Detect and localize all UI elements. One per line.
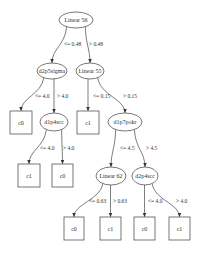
split-node-label: d1p4scc xyxy=(44,119,64,125)
tree-edge xyxy=(111,130,116,167)
split-node-label: Linear 56 xyxy=(64,17,87,23)
split-node-label: Linear 62 xyxy=(99,173,122,179)
edge-label: > 4.0 xyxy=(57,93,69,99)
edge-label: > 0.48 xyxy=(89,41,103,47)
edge-label: <= 4.5 xyxy=(120,145,135,151)
edge-label: <= 0.63 xyxy=(89,198,106,204)
edge-label: > 4.0 xyxy=(176,198,188,204)
leaf-node-label: c0 xyxy=(142,226,148,232)
split-node-label: d2p5sigma xyxy=(39,68,66,74)
split-node-label: d2p4scc xyxy=(135,173,155,179)
edge-label: > 4.5 xyxy=(146,145,158,151)
leaf-node-label: c0 xyxy=(71,226,77,232)
edge-label: <= 0.48 xyxy=(64,41,81,47)
edge-label: <= 0.15 xyxy=(93,93,110,99)
edge-label: > 0.63 xyxy=(113,198,127,204)
edge-label: > 4.0 xyxy=(63,145,75,151)
leaf-node-label: c1 xyxy=(85,120,91,126)
leaf-node-label: c1 xyxy=(26,173,32,179)
decision-tree-diagram: <= 0.48> 0.48<= 4.0> 4.0<= 0.15> 0.15<= … xyxy=(0,0,200,253)
split-node-label: Linear 55 xyxy=(78,68,101,74)
edge-label: <= 4.0 xyxy=(40,145,55,151)
edge-label: <= 4.0 xyxy=(35,93,50,99)
tree-edge xyxy=(134,130,145,167)
leaf-node-label: c0 xyxy=(18,120,24,126)
leaf-node-label: c1 xyxy=(177,226,183,232)
leaf-node-label: c0 xyxy=(60,173,66,179)
leaf-node-label: c1 xyxy=(108,226,114,232)
edge-label: <= 4.0 xyxy=(148,198,163,204)
split-node-label: d1p7pokr xyxy=(114,119,137,125)
edge-label: > 0.15 xyxy=(123,93,137,99)
